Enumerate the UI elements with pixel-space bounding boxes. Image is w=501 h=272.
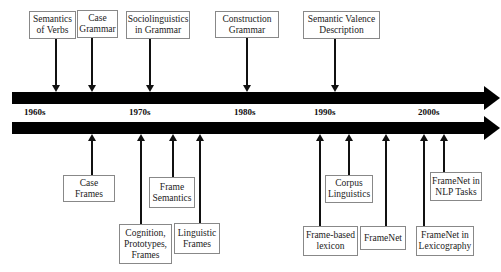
arrow-down-icon bbox=[243, 85, 251, 92]
arrow-up-icon bbox=[169, 134, 177, 141]
decade-label: 1990s bbox=[314, 107, 336, 117]
arrow-up-icon bbox=[345, 134, 353, 141]
arrow-down-icon bbox=[331, 85, 339, 92]
connector-line bbox=[443, 140, 445, 172]
event-box: FrameNet in NLP Tasks bbox=[430, 172, 482, 201]
arrow-up-icon bbox=[420, 134, 428, 141]
arrow-down-icon bbox=[146, 85, 154, 92]
event-box: Construction Grammar bbox=[215, 11, 279, 38]
event-box: Frame-based lexicon bbox=[303, 226, 358, 256]
timeline-diagram: 1960s1970s1980s1990s2000s Semantics of V… bbox=[0, 0, 501, 272]
event-box: Corpus Linguistics bbox=[325, 175, 373, 203]
connector-line bbox=[55, 39, 57, 86]
event-box: Semantic Valence Description bbox=[303, 11, 380, 39]
connector-line bbox=[423, 140, 425, 226]
event-box: Sociolinguistics in Grammar bbox=[126, 11, 190, 39]
event-box: Cognition, Prototypes, Frames bbox=[119, 224, 172, 264]
arrow-up-icon bbox=[316, 134, 324, 141]
event-box: Frame Semantics bbox=[149, 177, 195, 208]
connector-line bbox=[91, 140, 93, 175]
connector-line bbox=[385, 140, 387, 226]
arrow-up-icon bbox=[137, 134, 145, 141]
lower-timeline-arrowhead bbox=[484, 116, 500, 140]
lower-timeline-bar bbox=[12, 122, 486, 134]
arrow-up-icon bbox=[88, 134, 96, 141]
connector-line bbox=[319, 140, 321, 226]
connector-line bbox=[334, 39, 336, 86]
connector-line bbox=[91, 38, 93, 86]
connector-line bbox=[149, 39, 151, 86]
decade-label: 1960s bbox=[24, 107, 46, 117]
arrow-down-icon bbox=[88, 85, 96, 92]
connector-line bbox=[140, 140, 142, 224]
connector-line bbox=[246, 38, 248, 86]
arrow-up-icon bbox=[196, 134, 204, 141]
upper-timeline-bar bbox=[12, 92, 486, 104]
connector-line bbox=[348, 140, 350, 175]
event-box: Linguistic Frames bbox=[174, 223, 220, 254]
connector-line bbox=[199, 140, 201, 223]
event-box: FrameNet in Lexicography bbox=[416, 226, 474, 256]
upper-timeline-arrowhead bbox=[484, 86, 500, 110]
arrow-up-icon bbox=[440, 134, 448, 141]
arrow-down-icon bbox=[52, 85, 60, 92]
decade-label: 2000s bbox=[418, 107, 440, 117]
decade-label: 1970s bbox=[129, 107, 151, 117]
connector-line bbox=[172, 140, 174, 177]
decade-label: 1980s bbox=[234, 107, 256, 117]
event-box: Semantics of Verbs bbox=[29, 11, 76, 39]
event-box: Case Frames bbox=[63, 175, 115, 202]
arrow-up-icon bbox=[382, 134, 390, 141]
event-box: FrameNet bbox=[360, 226, 406, 250]
event-box: Case Grammar bbox=[77, 10, 118, 38]
